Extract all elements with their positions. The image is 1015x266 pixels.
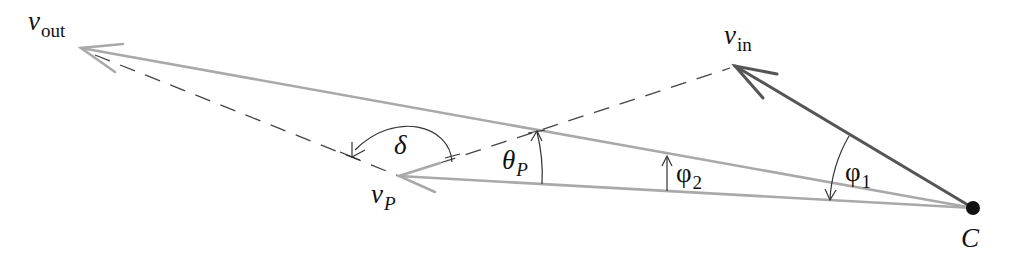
label-point-c: C bbox=[961, 225, 979, 252]
label-c-text: C bbox=[961, 223, 979, 253]
gravity-assist-vector-diagram bbox=[0, 0, 1015, 266]
label-v-out-symbol: v bbox=[28, 6, 40, 36]
label-v-in: vin bbox=[724, 22, 752, 49]
label-delta-symbol: δ bbox=[394, 130, 407, 160]
label-v-p: vP bbox=[371, 181, 396, 208]
point-c bbox=[966, 201, 980, 215]
label-phi-2: φ2 bbox=[676, 159, 702, 187]
label-phi-1-symbol: φ bbox=[845, 157, 861, 187]
label-v-out: vout bbox=[28, 8, 65, 35]
angle-theta-p-arc bbox=[528, 130, 545, 184]
label-phi-2-symbol: φ bbox=[676, 158, 692, 188]
label-phi-1: φ1 bbox=[845, 158, 871, 186]
label-delta: δ bbox=[394, 131, 407, 159]
arrowhead-delta-icon bbox=[352, 142, 365, 157]
dashed-line-vp-to-vin bbox=[440, 68, 730, 163]
label-v-p-subscript: P bbox=[384, 193, 396, 214]
label-phi-2-subscript: 2 bbox=[693, 172, 703, 193]
angle-phi-2-arc bbox=[662, 156, 672, 191]
label-v-in-symbol: v bbox=[724, 20, 736, 50]
label-v-in-subscript: in bbox=[737, 34, 752, 55]
label-theta-p-symbol: θ bbox=[502, 145, 515, 175]
label-phi-1-subscript: 1 bbox=[862, 171, 872, 192]
label-v-p-symbol: v bbox=[371, 179, 383, 209]
label-theta-p: θP bbox=[502, 146, 528, 174]
label-v-out-subscript: out bbox=[41, 20, 65, 41]
label-theta-p-subscript: P bbox=[516, 159, 528, 180]
